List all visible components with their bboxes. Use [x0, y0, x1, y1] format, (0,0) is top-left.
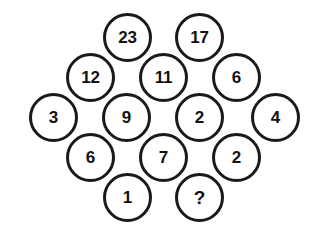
- number-label: 6: [86, 149, 95, 166]
- number-label: 23: [118, 29, 137, 46]
- number-circle: 2: [212, 133, 261, 182]
- number-circle: 6: [212, 53, 261, 102]
- number-circle: 11: [139, 53, 188, 102]
- number-circle: ?: [175, 173, 224, 222]
- puzzle-canvas: 23171211639246721?: [0, 0, 314, 240]
- number-label: 11: [155, 69, 173, 86]
- number-label: 17: [190, 29, 209, 46]
- number-circle: 4: [251, 93, 300, 142]
- number-circle: 7: [139, 133, 188, 182]
- number-circle: 3: [29, 93, 78, 142]
- number-label: 3: [49, 109, 58, 126]
- number-circle: 6: [66, 133, 115, 182]
- number-label: 2: [232, 149, 241, 166]
- number-circle: 9: [102, 93, 151, 142]
- number-label: 1: [123, 189, 132, 206]
- number-circle: 23: [103, 13, 152, 62]
- number-label: 12: [81, 69, 100, 86]
- number-circle: 12: [66, 53, 115, 102]
- number-label: 6: [232, 69, 241, 86]
- unknown-value-label: ?: [194, 188, 205, 207]
- number-label: 7: [159, 149, 168, 166]
- number-circle: 1: [103, 173, 152, 222]
- number-label: 9: [122, 109, 131, 126]
- number-label: 2: [195, 109, 204, 126]
- number-circle: 17: [175, 13, 224, 62]
- number-circle: 2: [175, 93, 224, 142]
- number-label: 4: [271, 109, 280, 126]
